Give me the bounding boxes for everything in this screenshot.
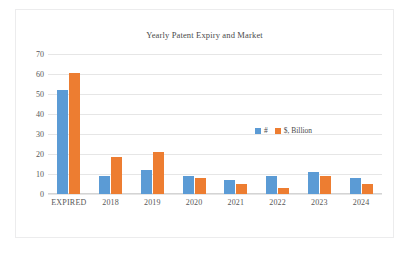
x-axis-tick-label: 2022	[257, 198, 299, 207]
legend-label: #	[264, 126, 268, 135]
x-axis-labels: EXPIRED2018201920202021202220232024	[48, 198, 382, 207]
y-axis-tick-label: 30	[36, 130, 44, 139]
legend-label: $, Billion	[284, 126, 312, 135]
y-axis-tick-label: 20	[36, 150, 44, 159]
bar	[57, 90, 68, 194]
x-axis-tick-label: 2020	[173, 198, 215, 207]
bar	[236, 184, 247, 194]
bar	[141, 170, 152, 194]
bar	[320, 176, 331, 194]
y-axis-tick-label: 40	[36, 110, 44, 119]
bar	[266, 176, 277, 194]
bar	[195, 178, 206, 194]
bar-group	[90, 54, 132, 194]
legend-swatch-icon	[275, 128, 281, 134]
bar-group	[299, 54, 341, 194]
bar	[69, 73, 80, 194]
y-axis-tick-label: 70	[36, 50, 44, 59]
x-axis-tick-label: 2021	[215, 198, 257, 207]
x-axis-tick-label: 2019	[132, 198, 174, 207]
bar-group	[215, 54, 257, 194]
bar-group	[132, 54, 174, 194]
chart-title: Yearly Patent Expiry and Market	[16, 30, 393, 40]
bar	[350, 178, 361, 194]
bar-group	[257, 54, 299, 194]
legend-entry[interactable]: #	[255, 126, 268, 135]
bar	[99, 176, 110, 194]
bar-group	[340, 54, 382, 194]
bar	[111, 157, 122, 194]
x-axis-tick-label: 2023	[299, 198, 341, 207]
legend-entry[interactable]: $, Billion	[275, 126, 312, 135]
x-axis-tick-label: 2018	[90, 198, 132, 207]
bar-group	[173, 54, 215, 194]
y-axis-tick-label: 10	[36, 170, 44, 179]
bar-groups	[48, 54, 382, 194]
bar	[224, 180, 235, 194]
x-axis-tick-label: 2024	[340, 198, 382, 207]
chart-legend: #$, Billion	[255, 126, 312, 135]
chart-card: Yearly Patent Expiry and Market 01020304…	[15, 9, 394, 238]
bar	[183, 176, 194, 194]
bar	[362, 184, 373, 194]
legend-swatch-icon	[255, 128, 261, 134]
bar-group	[48, 54, 90, 194]
y-axis-tick-label: 50	[36, 90, 44, 99]
y-axis-tick-label: 60	[36, 70, 44, 79]
bar	[308, 172, 319, 194]
bar	[153, 152, 164, 194]
x-axis-tick-label: EXPIRED	[48, 198, 90, 207]
plot-area: 010203040506070	[48, 54, 382, 194]
bar	[278, 188, 289, 194]
gridline	[48, 194, 382, 195]
y-axis-tick-label: 0	[40, 190, 44, 199]
